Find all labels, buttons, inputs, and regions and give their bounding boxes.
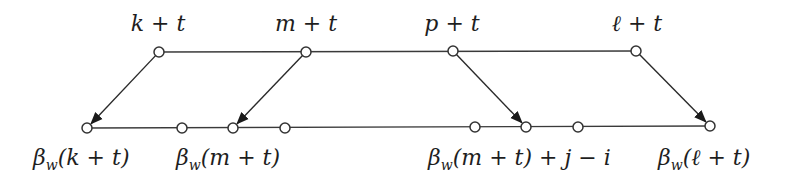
- node-m+t: [301, 47, 311, 57]
- node-p+t: [448, 46, 458, 56]
- node-bw(m+t)+j-i: [521, 122, 531, 132]
- labels: k + tm + tp + tℓ + tβw(k + t)βw(m + t)βw…: [32, 11, 750, 173]
- top-row-line: [159, 51, 636, 52]
- label-m+t: m + t: [275, 11, 337, 36]
- node-b1: [177, 123, 187, 133]
- node-b4: [470, 122, 480, 132]
- arrows: [91, 55, 706, 124]
- label-p+t: p + t: [424, 11, 480, 36]
- node-b6: [573, 122, 583, 132]
- node-b3: [280, 123, 290, 133]
- label-bw-k: βw(k + t): [32, 145, 129, 173]
- arrow-p+t-to-bw(m+t)+j-i: [456, 55, 521, 123]
- arrow-m+t-to-bw(m+t): [237, 56, 302, 124]
- label-bw-m-ji: βw(m + t) + j − i: [427, 145, 611, 173]
- label-k+t: k + t: [131, 11, 186, 36]
- arrow-k+t-to-bw(k+t): [91, 56, 155, 124]
- label-bw-l: βw(ℓ + t): [657, 145, 750, 173]
- label-l+t: ℓ + t: [612, 11, 663, 36]
- node-bw(l+t): [705, 121, 715, 131]
- row-lines: [87, 51, 710, 128]
- arrow-l+t-to-bw(l+t): [640, 55, 706, 122]
- node-bw(m+t): [228, 123, 238, 133]
- node-l+t: [631, 46, 641, 56]
- node-bw(k+t): [82, 123, 92, 133]
- label-bw-m: βw(m + t): [175, 145, 280, 173]
- nodes: [82, 46, 715, 133]
- mapping-diagram: k + tm + tp + tℓ + tβw(k + t)βw(m + t)βw…: [0, 0, 789, 185]
- node-k+t: [154, 47, 164, 57]
